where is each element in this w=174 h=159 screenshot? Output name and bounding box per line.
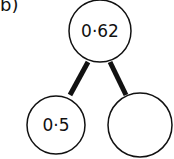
left-value: 0·5 — [42, 115, 69, 135]
root-value: 0·62 — [81, 21, 119, 41]
branch-left — [70, 62, 88, 95]
branch-right — [110, 62, 126, 95]
right-circle[interactable] — [108, 93, 172, 157]
number-bond-diagram: 0·62 0·5 — [0, 0, 174, 159]
